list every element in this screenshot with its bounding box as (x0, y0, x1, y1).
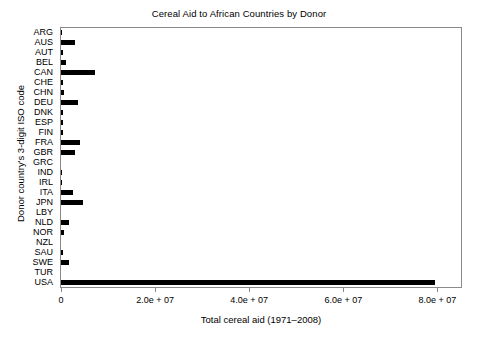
bar-esp (61, 120, 63, 125)
y-tick-label-gbr: GBR (33, 148, 53, 157)
bar-chn (61, 90, 64, 95)
bar-bel (61, 60, 66, 65)
bar-ind (61, 170, 62, 175)
y-tick-label-nor: NOR (33, 228, 53, 237)
bar-dnk (61, 110, 63, 115)
y-tick-label-lby: LBY (36, 208, 53, 217)
y-tick-label-aus: AUS (34, 38, 53, 47)
y-axis-tick-labels: ARGAUSAUTBELCANCHECHNDEUDNKESPFINFRAGBRG… (0, 28, 57, 287)
x-tick-mark-2 (249, 288, 250, 292)
y-tick-label-aut: AUT (35, 48, 53, 57)
y-tick-label-swe: SWE (32, 258, 53, 267)
bar-nor (61, 230, 64, 235)
y-tick-label-deu: DEU (34, 98, 53, 107)
y-tick-label-ind: IND (38, 168, 54, 177)
y-tick-label-fra: FRA (35, 138, 53, 147)
y-tick-label-bel: BEL (36, 58, 53, 67)
y-tick-label-tur: TUR (35, 268, 54, 277)
x-tick-label-3: 6.0e + 07 (324, 295, 362, 305)
y-tick-label-che: CHE (34, 78, 53, 87)
x-tick-mark-4 (437, 288, 438, 292)
x-tick-label-1: 2.0e + 07 (136, 295, 174, 305)
bar-irl (61, 180, 62, 185)
y-tick-label-nzl: NZL (36, 238, 53, 247)
x-tick-mark-1 (155, 288, 156, 292)
x-tick-mark-3 (343, 288, 344, 292)
bar-ita (61, 190, 73, 195)
x-tick-mark-0 (61, 288, 62, 292)
x-tick-label-4: 8.0e + 07 (419, 295, 457, 305)
bar-can (61, 70, 95, 75)
y-tick-label-grc: GRC (33, 158, 53, 167)
y-tick-label-esp: ESP (35, 118, 53, 127)
chart-title: Cereal Aid to African Countries by Donor (0, 8, 478, 19)
bar-deu (61, 100, 78, 105)
y-tick-label-nld: NLD (35, 218, 53, 227)
bar-swe (61, 260, 69, 265)
y-tick-label-jpn: JPN (36, 198, 53, 207)
y-tick-label-fin: FIN (39, 128, 54, 137)
y-tick-label-sau: SAU (34, 248, 53, 257)
bar-gbr (61, 150, 75, 155)
bar-fin (61, 130, 63, 135)
bar-che (61, 80, 63, 85)
y-tick-label-can: CAN (34, 68, 53, 77)
bar-sau (61, 250, 63, 255)
x-axis-label: Total cereal aid (1971–2008) (60, 314, 462, 325)
x-tick-label-2: 4.0e + 07 (230, 295, 268, 305)
y-tick-label-irl: IRL (39, 178, 53, 187)
y-tick-label-chn: CHN (34, 88, 54, 97)
bar-nld (61, 220, 69, 225)
y-tick-label-ita: ITA (40, 188, 53, 197)
bar-arg (61, 30, 62, 35)
y-tick-label-arg: ARG (33, 28, 53, 37)
bar-jpn (61, 200, 83, 205)
bar-usa (61, 280, 435, 285)
x-tick-label-0: 0 (58, 295, 63, 305)
bars-layer (61, 28, 461, 287)
bar-fra (61, 140, 80, 145)
bar-chart: Cereal Aid to African Countries by Donor… (0, 0, 478, 338)
y-tick-label-dnk: DNK (34, 108, 53, 117)
bar-aut (61, 50, 63, 55)
bar-aus (61, 40, 75, 45)
y-tick-label-usa: USA (34, 278, 53, 287)
